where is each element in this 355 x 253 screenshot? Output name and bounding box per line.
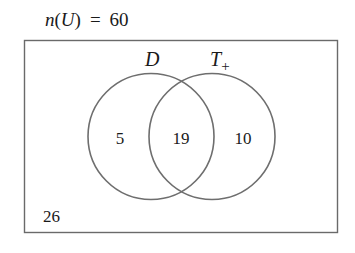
title-equals: = bbox=[90, 9, 101, 30]
set-t-plus-circle bbox=[149, 74, 275, 200]
title-close-paren: ) bbox=[75, 9, 81, 31]
universe-count-title: n(U)=60 bbox=[45, 9, 129, 31]
set-t-plus-label: T+ bbox=[210, 48, 230, 74]
t-plus-only-value: 10 bbox=[235, 129, 252, 148]
d-only-value: 5 bbox=[116, 129, 125, 148]
intersection-value: 19 bbox=[173, 129, 190, 148]
set-d-circle bbox=[88, 74, 214, 200]
set-d-label: D bbox=[144, 48, 160, 70]
title-func: n bbox=[45, 9, 55, 30]
outside-value: 26 bbox=[43, 207, 60, 226]
title-value: 60 bbox=[110, 9, 129, 30]
venn-diagram: n(U)=60 D T+ 5 19 10 26 bbox=[0, 0, 355, 253]
set-t-subscript: + bbox=[221, 58, 229, 74]
